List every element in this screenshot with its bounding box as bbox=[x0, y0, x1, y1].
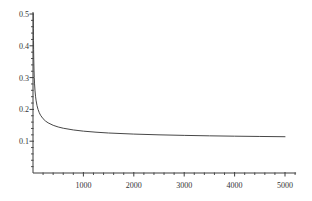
y-tick-label: 0.5 bbox=[19, 10, 29, 19]
curve-series bbox=[33, 14, 285, 137]
plot-figure: 100020003000400050000.10.20.30.40.5 bbox=[0, 0, 312, 201]
y-tick-label: 0.1 bbox=[19, 137, 29, 146]
x-tick-label: 2000 bbox=[126, 181, 142, 190]
decay-line-chart: 100020003000400050000.10.20.30.40.5 bbox=[0, 0, 312, 201]
x-tick-label: 3000 bbox=[176, 181, 192, 190]
x-tick-label: 4000 bbox=[227, 181, 243, 190]
y-tick-label: 0.2 bbox=[19, 105, 29, 114]
y-tick-label: 0.4 bbox=[19, 42, 29, 51]
x-tick-label: 1000 bbox=[75, 181, 91, 190]
y-tick-label: 0.3 bbox=[19, 74, 29, 83]
x-tick-label: 5000 bbox=[277, 181, 293, 190]
